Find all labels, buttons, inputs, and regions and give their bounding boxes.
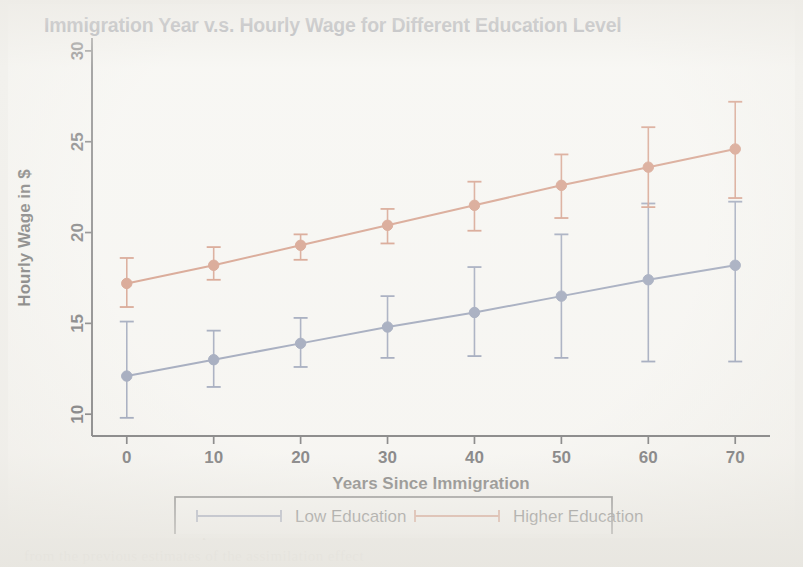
x-tick-label: 30 [378, 448, 397, 467]
series-point-marker[interactable] [469, 307, 479, 317]
chart-title: Immigration Year v.s. Hourly Wage for Di… [44, 14, 622, 37]
legend-item-label: Higher Education [513, 507, 643, 526]
line-chart-with-error-bars: 1015202530 010203040506070 Years Since I… [0, 0, 787, 534]
legend-item-label: Low Education [295, 507, 407, 526]
y-axis: 1015202530 [69, 38, 93, 436]
error-bar [728, 202, 742, 362]
y-tick-label: 15 [69, 314, 88, 333]
series-point-marker[interactable] [730, 144, 740, 154]
series-point-marker[interactable] [208, 260, 218, 270]
series-point-marker[interactable] [208, 355, 218, 365]
x-tick-label: 70 [726, 448, 745, 467]
series-point-marker[interactable] [295, 240, 305, 250]
data-series-group [120, 102, 742, 418]
series-point-marker[interactable] [382, 322, 392, 332]
series-point-marker[interactable] [556, 291, 566, 301]
series-point-marker[interactable] [295, 338, 305, 348]
y-tick-label: 10 [69, 405, 88, 424]
x-tick-label: 0 [122, 448, 131, 467]
bleed-line: from the previous estimates of the assim… [24, 548, 364, 565]
series-point-marker[interactable] [122, 278, 132, 288]
series-point-marker[interactable] [469, 200, 479, 210]
series-point-marker[interactable] [730, 260, 740, 270]
data-series [120, 202, 742, 418]
series-point-marker[interactable] [122, 371, 132, 381]
y-tick-label: 20 [69, 223, 88, 242]
x-tick-label: 40 [465, 448, 484, 467]
y-tick-label: 25 [69, 132, 88, 151]
chart-plot-area: 1015202530 010203040506070 Years Since I… [0, 0, 787, 534]
series-point-marker[interactable] [382, 220, 392, 230]
x-axis-title: Years Since Immigration [332, 474, 529, 493]
x-axis: 010203040506070 [92, 436, 770, 467]
chart-legend[interactable]: Low EducationHigher Education [175, 497, 643, 534]
series-point-marker[interactable] [643, 275, 653, 285]
x-tick-label: 10 [204, 448, 223, 467]
y-axis-title: Hourly Wage in $ [15, 169, 34, 307]
x-tick-label: 50 [552, 448, 571, 467]
series-point-marker[interactable] [643, 162, 653, 172]
error-bar [120, 322, 134, 418]
y-tick-label: 30 [69, 41, 88, 60]
x-tick-label: 60 [639, 448, 658, 467]
x-tick-label: 20 [291, 448, 310, 467]
series-point-marker[interactable] [556, 180, 566, 190]
